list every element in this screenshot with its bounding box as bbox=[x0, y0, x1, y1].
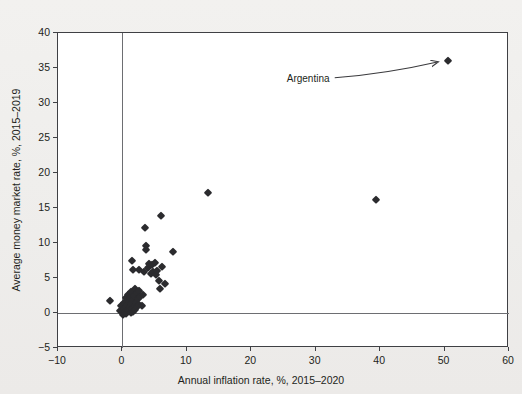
x-tick-label: 50 bbox=[438, 355, 450, 366]
x-axis-title: Annual inflation rate, %, 2015–2020 bbox=[0, 374, 522, 386]
x-tick-mark bbox=[508, 347, 509, 351]
y-tick-mark bbox=[53, 277, 57, 278]
data-point bbox=[128, 256, 137, 265]
x-tick-mark bbox=[57, 347, 58, 351]
y-tick-mark bbox=[53, 347, 57, 348]
y-tick-label: 40 bbox=[25, 27, 50, 38]
x-tick-label: 60 bbox=[502, 355, 514, 366]
y-tick-label: 5 bbox=[25, 272, 50, 283]
y-tick-mark bbox=[53, 32, 57, 33]
data-point bbox=[168, 248, 177, 257]
y-tick-mark bbox=[53, 102, 57, 103]
argentina-annotation-label: Argentina bbox=[287, 72, 330, 83]
plot-area: Argentina bbox=[57, 32, 508, 347]
x-tick-label: 10 bbox=[180, 355, 192, 366]
y-tick-label: 20 bbox=[25, 167, 50, 178]
data-point bbox=[157, 212, 166, 221]
y-tick-label: 25 bbox=[25, 132, 50, 143]
x-tick-mark bbox=[444, 347, 445, 351]
scatter-plot-figure: Argentina −100102030405060−5051015202530… bbox=[0, 0, 522, 394]
x-tick-mark bbox=[250, 347, 251, 351]
y-axis-title: Average money market rate, %, 2015–2019 bbox=[10, 88, 22, 291]
y-tick-mark bbox=[53, 207, 57, 208]
x-tick-label: 30 bbox=[309, 355, 321, 366]
x-tick-mark bbox=[121, 347, 122, 351]
data-point bbox=[444, 56, 453, 65]
y-tick-mark bbox=[53, 67, 57, 68]
x-tick-mark bbox=[379, 347, 380, 351]
y-tick-mark bbox=[53, 312, 57, 313]
y-tick-label: 15 bbox=[25, 202, 50, 213]
y-tick-label: 30 bbox=[25, 97, 50, 108]
x-tick-mark bbox=[186, 347, 187, 351]
data-point bbox=[372, 196, 381, 205]
y-tick-label: 0 bbox=[25, 307, 50, 318]
data-point bbox=[142, 245, 151, 254]
y-tick-label: −5 bbox=[25, 342, 50, 353]
x-tick-label: 0 bbox=[119, 355, 125, 366]
y-tick-label: 10 bbox=[25, 237, 50, 248]
x-tick-label: 20 bbox=[244, 355, 256, 366]
y-tick-mark bbox=[53, 137, 57, 138]
y-tick-mark bbox=[53, 172, 57, 173]
data-point bbox=[106, 297, 115, 306]
y-tick-label: 35 bbox=[25, 62, 50, 73]
x-tick-label: −10 bbox=[48, 355, 66, 366]
data-point bbox=[140, 223, 149, 232]
y-tick-mark bbox=[53, 242, 57, 243]
x-tick-mark bbox=[315, 347, 316, 351]
x-tick-label: 40 bbox=[373, 355, 385, 366]
data-point bbox=[204, 189, 213, 198]
